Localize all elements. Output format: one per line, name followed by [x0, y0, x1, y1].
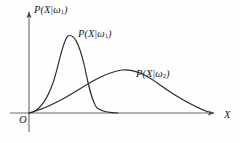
- origin-label: O: [19, 115, 27, 126]
- curve2-label-base: P(X|ω: [136, 68, 163, 79]
- curve-label-omega1: P(X|ω1): [78, 29, 111, 40]
- density-curve-omega2: [29, 70, 208, 113]
- plot-canvas: [0, 0, 240, 143]
- curve1-label-base: P(X|ω: [78, 28, 105, 39]
- y-axis-title: P(X|ω1): [34, 5, 67, 16]
- y-axis-title-base: P(X|ω: [34, 4, 61, 15]
- density-curve-omega1: [29, 36, 118, 113]
- x-axis-title: X: [224, 110, 230, 121]
- probability-density-figure: P(X|ω1) P(X|ω1) P(X|ω2) O X: [0, 0, 240, 143]
- y-axis-title-close: ): [64, 4, 68, 15]
- curve-label-omega2: P(X|ω2): [136, 69, 169, 80]
- curve2-label-close: ): [166, 68, 170, 79]
- curve1-label-close: ): [108, 28, 112, 39]
